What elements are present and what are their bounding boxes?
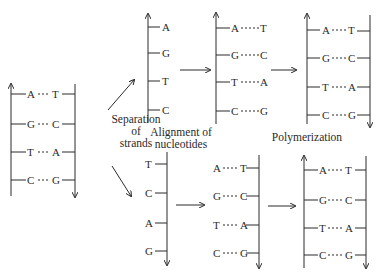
parent-base: A xyxy=(52,147,60,158)
top-polymer-base: T xyxy=(322,82,329,93)
top-strand-base: T xyxy=(162,76,169,87)
bottom-polymer-base: A xyxy=(345,223,353,234)
bottom-strand-base: C xyxy=(145,188,152,199)
parent-base: C xyxy=(52,119,59,130)
top-aligned-base: T xyxy=(260,23,267,34)
parent-base: T xyxy=(52,89,59,100)
bottom-polymer-base: C xyxy=(345,195,352,206)
label-alignment-line2: nucleotides xyxy=(143,138,219,150)
bottom-aligned-base: T xyxy=(240,163,247,174)
parent-base: A xyxy=(27,89,35,100)
label-alignment: Alignment of nucleotides xyxy=(143,126,219,150)
label-separation-line1: Separation xyxy=(108,113,164,125)
bottom-polymer-base: G xyxy=(345,250,353,261)
top-polymer-base: G xyxy=(322,53,330,64)
parent-base: G xyxy=(27,119,35,130)
bottom-aligned-base: G xyxy=(240,248,248,259)
top-polymer-base: A xyxy=(322,25,330,36)
bottom-polymer-base: A xyxy=(319,165,327,176)
top-polymer-base: A xyxy=(348,82,356,93)
bottom-aligned-base: A xyxy=(213,163,221,174)
top-aligned-base: G xyxy=(231,50,239,61)
arrow-down xyxy=(112,166,131,196)
top-strand-base: G xyxy=(162,48,170,59)
arrow-up xyxy=(108,80,134,110)
label-polymerization: Polymerization xyxy=(257,131,357,143)
top-aligned-base: C xyxy=(231,106,238,117)
bottom-aligned-base: A xyxy=(240,220,248,231)
top-aligned-base: C xyxy=(260,50,267,61)
top-aligned-base: A xyxy=(231,23,239,34)
bottom-polymer-base: C xyxy=(319,250,326,261)
bottom-aligned-base: G xyxy=(213,191,221,202)
label-alignment-line1: Alignment of xyxy=(143,126,219,138)
bottom-polymer-base: G xyxy=(319,195,327,206)
bottom-polymer-base: T xyxy=(319,223,326,234)
parent-base: C xyxy=(27,175,34,186)
top-aligned-base: A xyxy=(260,77,268,88)
top-strand-base: A xyxy=(162,22,170,33)
bottom-polymer-base: T xyxy=(345,165,352,176)
bottom-strand-base: G xyxy=(145,246,153,257)
bottom-aligned-base: C xyxy=(213,248,220,259)
top-polymer-base: C xyxy=(348,53,355,64)
bottom-aligned-base: T xyxy=(213,220,220,231)
top-aligned-base: G xyxy=(260,106,268,117)
parent-base: T xyxy=(27,147,34,158)
bottom-aligned-base: C xyxy=(240,191,247,202)
top-aligned-base: T xyxy=(231,77,238,88)
top-polymer-base: G xyxy=(348,110,356,121)
top-polymer-base: C xyxy=(322,110,329,121)
top-strand-base: C xyxy=(162,105,169,116)
bottom-strand-base: T xyxy=(145,159,152,170)
top-polymer-base: T xyxy=(348,25,355,36)
parent-base: G xyxy=(52,175,60,186)
bottom-strand-base: A xyxy=(145,218,153,229)
